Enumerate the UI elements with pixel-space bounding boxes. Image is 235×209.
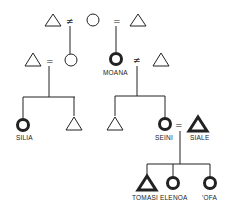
- label-moana: MOANA: [103, 69, 128, 76]
- gen2-male-left: [25, 53, 41, 66]
- label-seini: SEINI: [155, 134, 173, 141]
- divorce-symbol-gen1: ≠: [66, 16, 74, 26]
- gen2-male-right: [153, 53, 169, 66]
- gen1-male-right: [130, 14, 146, 26]
- ofa-circle: [205, 178, 216, 189]
- marriage-symbol-gen1: =: [113, 16, 121, 26]
- gen3-male-mid: [107, 117, 123, 130]
- siale-triangle: [189, 117, 207, 131]
- tomasi-triangle: [138, 176, 156, 190]
- elenoa-circle: [168, 178, 179, 189]
- label-elenoa: ELENOA: [160, 194, 188, 201]
- gen3-male-left: [66, 117, 82, 130]
- silia-circle: [18, 120, 29, 131]
- divorce-symbol-gen2: ≠: [133, 55, 141, 65]
- label-silia: SILIA: [16, 134, 33, 141]
- kinship-diagram: ≠ = = ≠ = MOANA SILIA SEINI SIALE TOMASI…: [0, 0, 235, 209]
- gen2-female-left: [65, 54, 77, 66]
- marriage-symbol-gen3: =: [175, 120, 183, 130]
- gen1-male-left: [45, 14, 61, 26]
- marriage-symbol-gen2: =: [46, 56, 54, 66]
- label-tomasi: TOMASI: [132, 194, 158, 201]
- label-siale: SIALE: [190, 134, 210, 141]
- gen1-female: [87, 14, 99, 26]
- seini-circle: [160, 119, 171, 130]
- label-ofa: 'OFA: [202, 194, 218, 201]
- moana-circle: [111, 54, 122, 65]
